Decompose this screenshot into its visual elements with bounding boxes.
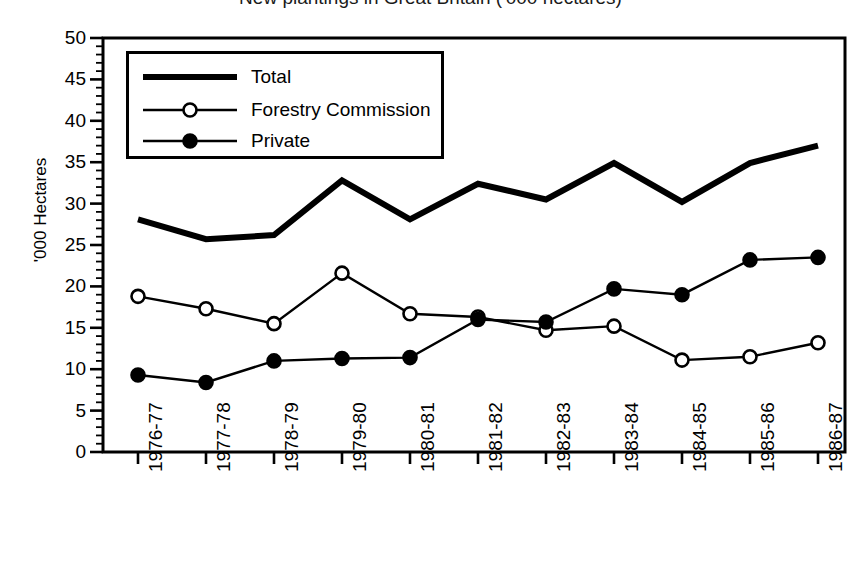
x-tick-label: 1978-79 (282, 402, 301, 472)
y-tick-label: 15 (42, 318, 86, 337)
y-tick-label: 5 (42, 401, 86, 420)
data-point-private (268, 354, 281, 367)
legend-swatch-forestry-commission (141, 95, 239, 125)
y-tick-label: 25 (42, 235, 86, 254)
y-tick-label: 20 (42, 276, 86, 295)
data-point-private (608, 282, 621, 295)
data-point-forestry-commission (676, 354, 689, 367)
legend-label: Forestry Commission (251, 99, 430, 121)
y-tick-label: 45 (42, 69, 86, 88)
legend-marker (184, 104, 197, 117)
y-tick-label: 40 (42, 111, 86, 130)
legend-item: Private (129, 126, 447, 156)
data-point-private (472, 313, 485, 326)
data-point-forestry-commission (404, 307, 417, 320)
data-point-private (676, 288, 689, 301)
legend-label: Private (251, 130, 310, 152)
data-point-private (200, 376, 213, 389)
chart-title: New plantings in Great Britain ('000 hec… (0, 0, 861, 9)
data-point-forestry-commission (744, 350, 757, 363)
data-point-forestry-commission (336, 267, 349, 280)
y-tick-label: 0 (42, 442, 86, 461)
x-axis-ticks (138, 452, 818, 464)
legend-item: Forestry Commission (129, 95, 447, 125)
legend-item: Total (129, 62, 447, 92)
y-tick-label: 35 (42, 152, 86, 171)
legend-marker (184, 135, 197, 148)
data-point-private (336, 352, 349, 365)
data-point-private (540, 316, 553, 329)
x-tick-label: 1982-83 (554, 402, 573, 472)
data-point-private (812, 251, 825, 264)
data-point-private (744, 253, 757, 266)
series-line-total (138, 146, 818, 240)
chart-legend: TotalForestry CommissionPrivate (126, 51, 444, 159)
y-tick-label: 50 (42, 28, 86, 47)
data-point-forestry-commission (608, 320, 621, 333)
data-point-private (404, 351, 417, 364)
data-series-group (132, 146, 825, 389)
data-point-forestry-commission (200, 302, 213, 315)
y-axis-ticks (90, 38, 103, 452)
x-tick-label: 1980-81 (418, 402, 437, 472)
data-point-private (132, 368, 145, 381)
x-tick-label: 1981-82 (486, 402, 505, 472)
legend-swatch-total (141, 62, 239, 92)
legend-label: Total (251, 66, 291, 88)
legend-swatch-private (141, 126, 239, 156)
x-tick-label: 1976-77 (146, 402, 165, 472)
x-tick-label: 1985-86 (758, 402, 777, 472)
data-point-forestry-commission (812, 336, 825, 349)
x-tick-label: 1984-85 (690, 402, 709, 472)
chart-container: New plantings in Great Britain ('000 hec… (0, 0, 861, 569)
y-tick-label: 10 (42, 359, 86, 378)
x-tick-label: 1979-80 (350, 402, 369, 472)
x-tick-label: 1983-84 (622, 402, 641, 472)
data-point-forestry-commission (132, 290, 145, 303)
x-tick-label: 1986-87 (826, 402, 845, 472)
data-point-forestry-commission (268, 317, 281, 330)
x-tick-label: 1977-78 (214, 402, 233, 472)
y-tick-label: 30 (42, 194, 86, 213)
